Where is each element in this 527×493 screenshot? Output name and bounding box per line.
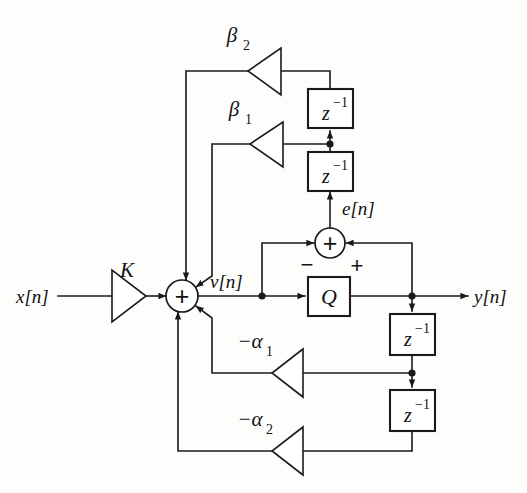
gain-alpha1-label: −α bbox=[237, 329, 263, 353]
delay-top-lower-label: z bbox=[321, 165, 330, 187]
label-e-n: e[n] bbox=[342, 198, 375, 219]
top-delay-chain: z −1 z −1 bbox=[308, 89, 353, 191]
error-summer-plus-glyph: + bbox=[323, 229, 338, 257]
gain-alpha2-subscript: 2 bbox=[266, 422, 273, 437]
gain-alpha2-triangle bbox=[272, 427, 303, 475]
label-y-n: y[n] bbox=[472, 286, 507, 307]
alpha2-branch: −α 2 bbox=[178, 312, 412, 475]
gain-beta2-subscript: 2 bbox=[243, 38, 250, 53]
main-summer-plus-glyph: + bbox=[175, 282, 190, 310]
delay-bottom-upper-label: z bbox=[403, 328, 412, 350]
signal-flow-diagram: + Q + − + e[n] bbox=[0, 0, 527, 493]
flowgraph-canvas: + Q + − + e[n] bbox=[0, 0, 527, 493]
bottom-delay-chain: z −1 z −1 bbox=[390, 296, 435, 431]
input-branch bbox=[58, 270, 166, 322]
gain-beta1-subscript: 1 bbox=[245, 112, 252, 127]
gain-beta1-label: β bbox=[228, 97, 240, 121]
wire-delay-to-beta2 bbox=[281, 71, 330, 89]
gain-alpha1-triangle bbox=[272, 349, 303, 397]
gain-beta2-triangle bbox=[248, 48, 281, 95]
delay-bottom-lower-label: z bbox=[403, 404, 412, 426]
label-v-n: v[n] bbox=[210, 271, 243, 292]
gain-beta1-triangle bbox=[250, 122, 283, 167]
quantizer-label: Q bbox=[321, 284, 337, 309]
gain-alpha2-label: −α bbox=[237, 407, 263, 431]
delay-bottom-lower-exponent: −1 bbox=[415, 397, 430, 412]
gain-k-label: K bbox=[119, 258, 135, 282]
error-summer-plus-sign: + bbox=[351, 253, 364, 278]
gain-alpha1-subscript: 1 bbox=[266, 344, 273, 359]
delay-top-upper-label: z bbox=[321, 102, 330, 124]
error-summer-minus-sign: − bbox=[301, 252, 314, 277]
gain-beta2-label: β bbox=[226, 23, 238, 47]
delay-bottom-upper-exponent: −1 bbox=[415, 321, 430, 336]
delay-top-upper-exponent: −1 bbox=[333, 95, 348, 110]
delay-top-lower-exponent: −1 bbox=[333, 158, 348, 173]
wire-delay-bottom-lower-to-alpha2 bbox=[303, 431, 412, 451]
main-summer: + bbox=[166, 280, 198, 312]
label-x-n: x[n] bbox=[15, 286, 49, 307]
alpha1-branch: −α 1 bbox=[196, 306, 412, 397]
wire-beta1-to-sum bbox=[196, 144, 250, 287]
